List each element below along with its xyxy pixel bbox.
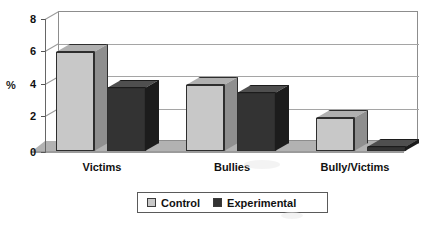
bar-front-face (186, 85, 224, 151)
legend-item-experimental[interactable]: Experimental (213, 197, 296, 209)
category-label-bullyvictims: Bully/Victims (300, 161, 410, 173)
gridline-6 (59, 44, 419, 45)
legend-label-control: Control (161, 197, 200, 209)
y-tick-label-2: 2 (22, 110, 36, 122)
plot-floor-front-edge (31, 151, 404, 153)
legend: Control Experimental (137, 192, 328, 213)
y-tick-mark-6 (41, 51, 45, 52)
bar-bullies-control (186, 77, 238, 151)
bar-victims-experimental (107, 80, 159, 151)
legend-item-control[interactable]: Control (147, 197, 200, 209)
category-label-victims: Victims (52, 161, 152, 173)
y-tick-label-4: 4 (22, 78, 36, 90)
category-label-bullies: Bullies (182, 161, 282, 173)
legend-swatch-experimental (213, 198, 222, 207)
y-tick-mark-4 (41, 84, 45, 85)
bar-victims-control (56, 44, 108, 151)
y-axis-line (45, 19, 46, 153)
bar-chart: 8 6 4 2 0 % Victi (0, 0, 433, 227)
y-tick-label-8: 8 (22, 13, 36, 25)
bar-side-face (224, 77, 238, 151)
bar-side-face (94, 44, 108, 151)
legend-label-experimental: Experimental (227, 197, 296, 209)
y-tick-mark-2 (41, 116, 45, 117)
bar-front-face (56, 52, 94, 151)
bar-bullies-experimental (237, 85, 289, 151)
bar-side-face (145, 80, 159, 151)
bar-front-face (237, 93, 275, 151)
y-tick-label-0: 0 (22, 146, 36, 158)
depth-line-8 (45, 11, 59, 20)
scan-artifact (281, 212, 303, 219)
bar-front-face (367, 147, 405, 151)
legend-swatch-control (147, 198, 156, 207)
y-tick-label-6: 6 (22, 45, 36, 57)
bar-front-face (316, 118, 354, 151)
bar-side-face (275, 85, 289, 151)
bar-front-face (107, 88, 145, 151)
gridline-4 (59, 76, 419, 77)
bar-bullyvictims-experimental (367, 139, 419, 151)
bar-bullyvictims-control (316, 110, 368, 151)
y-axis-title: % (6, 79, 16, 91)
y-tick-mark-0 (41, 152, 45, 153)
y-tick-mark-8 (41, 19, 45, 20)
